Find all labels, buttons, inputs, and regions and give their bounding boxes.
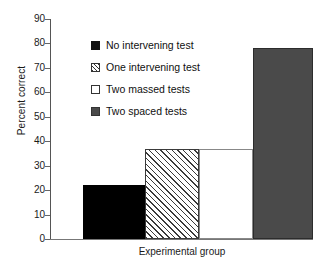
y-tick-label-text: 50 <box>19 112 45 122</box>
legend-swatch-gray-icon <box>91 107 100 116</box>
y-tick-label: 40 <box>0 136 45 146</box>
y-tick-label-text: 0 <box>19 234 45 244</box>
bar-4 <box>253 48 313 239</box>
y-tick-label-text: 80 <box>19 38 45 48</box>
x-axis-line <box>50 239 313 240</box>
x-axis-title: Experimental group <box>51 246 313 257</box>
y-tick-mark <box>45 92 50 93</box>
legend-item-2: One intervening test <box>91 61 200 73</box>
y-tick-label-text: 10 <box>19 210 45 220</box>
bar-chart: Percent correct 0102030405060708090 No i… <box>0 0 321 266</box>
y-tick-label: 60 <box>0 87 45 97</box>
y-tick-label-text: 20 <box>19 185 45 195</box>
legend-item-1: No intervening test <box>91 39 200 51</box>
y-tick-mark <box>45 190 50 191</box>
y-tick-mark <box>45 19 50 20</box>
legend-item-3: Two massed tests <box>91 83 200 95</box>
legend-swatch-hatched-icon <box>91 63 100 72</box>
legend-item-label: Two massed tests <box>106 84 190 95</box>
legend-item-label: No intervening test <box>106 40 194 51</box>
legend: No intervening testOne intervening testT… <box>91 39 200 117</box>
y-tick-mark <box>45 239 50 240</box>
legend-swatch-black-icon <box>91 41 100 50</box>
y-tick-mark <box>45 166 50 167</box>
y-tick-mark <box>45 43 50 44</box>
y-tick-label: 20 <box>0 185 45 195</box>
bar-2 <box>145 149 199 239</box>
y-tick-mark <box>45 68 50 69</box>
y-tick-mark <box>45 141 50 142</box>
y-tick-label-text: 60 <box>19 87 45 97</box>
y-tick-label: 70 <box>0 63 45 73</box>
bar-1 <box>83 185 145 239</box>
y-tick-label: 30 <box>0 161 45 171</box>
y-tick-label-text: 70 <box>19 63 45 73</box>
y-tick-label: 90 <box>0 14 45 24</box>
y-tick-label: 80 <box>0 38 45 48</box>
legend-item-4: Two spaced tests <box>91 105 200 117</box>
legend-item-label: One intervening test <box>106 62 200 73</box>
y-tick-label-text: 90 <box>19 14 45 24</box>
y-tick-mark <box>45 215 50 216</box>
y-tick-label-text: 40 <box>19 136 45 146</box>
legend-item-label: Two spaced tests <box>106 106 187 117</box>
y-tick-label: 50 <box>0 112 45 122</box>
y-tick-label: 10 <box>0 210 45 220</box>
y-tick-label-text: 30 <box>19 161 45 171</box>
bar-3 <box>199 149 253 239</box>
y-tick-label: 0 <box>0 234 45 244</box>
legend-swatch-white-icon <box>91 85 100 94</box>
y-tick-mark <box>45 117 50 118</box>
